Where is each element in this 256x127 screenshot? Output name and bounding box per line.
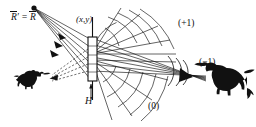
optics-diagram: R′ = R (x,y) (+1) (−1) (0) H [0, 0, 256, 127]
virtual-ray-arrowhead [50, 75, 59, 81]
real-image-bull [194, 62, 254, 99]
plate-coordinates-label: (x,y) [76, 14, 92, 24]
reference-wave-vector-label: R′ = R [11, 12, 36, 22]
diffraction-order-minus-one-label: (−1) [199, 57, 215, 67]
diffraction-order-zero-label: (0) [148, 101, 159, 111]
diffraction-fan-zero [92, 60, 176, 121]
diffraction-order-plus-one-label: (+1) [178, 18, 194, 28]
hologram-plate-label: H [85, 95, 92, 106]
diagram-canvas [0, 0, 256, 127]
diffraction-fan-plus-one [92, 8, 176, 54]
hologram-plate [88, 37, 97, 81]
virtual-image-bull [14, 70, 51, 89]
